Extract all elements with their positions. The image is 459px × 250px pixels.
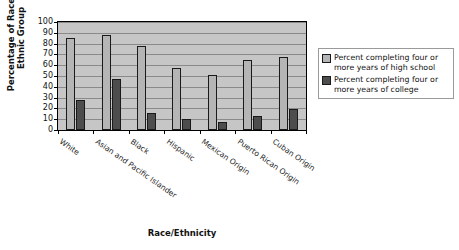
- x-axis-tick-mark: [93, 130, 94, 134]
- bar-chart: Percentage of Race or Ethnic Group 01020…: [0, 0, 459, 250]
- bar: [208, 75, 217, 130]
- legend-label-college-line1: Percent completing four or: [334, 75, 438, 84]
- x-axis-tick-mark: [306, 130, 307, 134]
- y-axis-title-line1: Percentage of Race or: [6, 0, 16, 98]
- x-axis-tick-mark: [58, 130, 59, 134]
- x-axis-tick-mark: [200, 130, 201, 134]
- legend-label-high-school-line1: Percent completing four or: [334, 53, 438, 62]
- y-axis-tick-label: 10: [18, 115, 58, 123]
- bar: [137, 46, 146, 130]
- bar: [182, 119, 191, 130]
- bar: [253, 116, 262, 130]
- legend-swatch-high-school: [322, 54, 331, 63]
- bar-group: [164, 22, 199, 130]
- y-axis-tick-label: 50: [18, 72, 58, 80]
- bar: [289, 109, 298, 130]
- y-axis-tick-label: 20: [18, 104, 58, 112]
- y-axis-tick-label: 100: [18, 18, 58, 26]
- legend-item-college: Percent completing four or more years of…: [322, 75, 450, 94]
- y-axis-tick-label: 80: [18, 40, 58, 48]
- bar: [112, 79, 121, 130]
- bar: [172, 68, 181, 130]
- x-axis-tick-label: Puerto Rican Origin: [235, 137, 300, 187]
- y-axis-tick-label: 30: [18, 94, 58, 102]
- bar: [147, 113, 156, 130]
- bar: [218, 122, 227, 130]
- bar: [66, 38, 75, 130]
- x-axis-tick-label: White: [58, 137, 81, 157]
- y-axis-tick-label: 40: [18, 83, 58, 91]
- bar-group: [271, 22, 306, 130]
- legend-label-high-school-line2: more years of high school: [334, 63, 435, 72]
- x-axis-tick-mark: [235, 130, 236, 134]
- x-axis-tick-mark: [271, 130, 272, 134]
- legend-label-college: Percent completing four or more years of…: [334, 75, 450, 94]
- bar-group: [58, 22, 93, 130]
- bar-groups: [58, 22, 306, 130]
- legend-label-high-school: Percent completing four or more years of…: [334, 53, 450, 72]
- legend-label-college-line2: more years of college: [334, 85, 419, 94]
- x-axis-labels: WhiteAsian and Pacific IslanderBlackHisp…: [57, 137, 307, 207]
- x-axis-tick-mark: [129, 130, 130, 134]
- bar: [279, 57, 288, 130]
- plot-area: 0102030405060708090100: [57, 21, 307, 131]
- y-axis-tick-label: 60: [18, 61, 58, 69]
- bar-group: [200, 22, 235, 130]
- legend: Percent completing four or more years of…: [318, 48, 454, 99]
- x-axis-title: Race/Ethnicity: [57, 228, 307, 238]
- bar: [76, 100, 85, 130]
- bar: [102, 35, 111, 130]
- bar-group: [93, 22, 128, 130]
- x-axis-tick-mark: [164, 130, 165, 134]
- bar: [243, 60, 252, 130]
- bar-group: [235, 22, 270, 130]
- y-axis-tick-label: 70: [18, 50, 58, 58]
- x-axis-tick-label: Hispanic: [164, 137, 196, 163]
- y-axis-tick-label: 90: [18, 29, 58, 37]
- y-axis-tick-label: 0: [18, 126, 58, 134]
- x-axis-tick-label: Black: [129, 137, 151, 156]
- bar-group: [129, 22, 164, 130]
- legend-swatch-college: [322, 76, 331, 85]
- legend-item-high-school: Percent completing four or more years of…: [322, 53, 450, 72]
